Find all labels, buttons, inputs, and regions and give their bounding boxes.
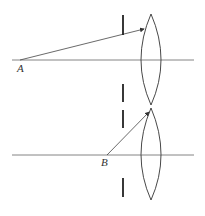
top-diagram: A: [12, 14, 194, 105]
convex-lens: [141, 108, 161, 200]
point-label: B: [101, 156, 108, 168]
light-ray: [20, 29, 144, 60]
optics-diagram: A B: [0, 0, 205, 216]
bottom-diagram: B: [12, 108, 194, 200]
convex-lens: [141, 14, 161, 105]
point-label: A: [16, 62, 24, 74]
